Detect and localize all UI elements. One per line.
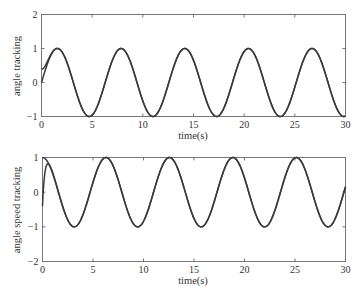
x-tick-label: 5 bbox=[90, 119, 95, 130]
bottom-reference-curve bbox=[43, 158, 346, 227]
bottom-y-label: angle speed tracking bbox=[11, 166, 22, 253]
top-tracking-curve bbox=[42, 48, 346, 116]
bottom-plot-frame bbox=[43, 158, 346, 262]
y-tick-label: 1 bbox=[33, 43, 38, 54]
x-tick-label: 15 bbox=[189, 119, 199, 130]
x-tick-label: 15 bbox=[189, 264, 199, 275]
x-tick-label: 0 bbox=[39, 119, 44, 130]
x-tick-label: 20 bbox=[239, 119, 249, 130]
top-plot: 051015202530 −1012 time(s) angle trackin… bbox=[11, 9, 351, 142]
x-tick-label: 10 bbox=[139, 264, 149, 275]
y-tick-label: −1 bbox=[27, 111, 38, 122]
y-tick-label: −2 bbox=[28, 256, 39, 267]
y-tick-label: 2 bbox=[33, 9, 38, 20]
y-tick-label: 1 bbox=[34, 152, 39, 163]
top-plot-frame bbox=[42, 15, 346, 117]
x-tick-label: 25 bbox=[290, 264, 300, 275]
figure: 051015202530 −1012 time(s) angle trackin… bbox=[0, 0, 359, 298]
bottom-y-ticks: −2−101 bbox=[28, 152, 346, 267]
bottom-plot: 051015202530 −2−101 time(s) angle speed … bbox=[11, 152, 351, 287]
x-tick-label: 30 bbox=[341, 264, 351, 275]
x-tick-label: 30 bbox=[341, 119, 351, 130]
y-tick-label: 0 bbox=[34, 187, 39, 198]
x-tick-label: 25 bbox=[290, 119, 300, 130]
x-tick-label: 0 bbox=[40, 264, 45, 275]
x-tick-label: 5 bbox=[91, 264, 96, 275]
top-y-ticks: −1012 bbox=[27, 9, 346, 122]
top-x-label: time(s) bbox=[178, 130, 208, 142]
bottom-x-label: time(s) bbox=[178, 275, 208, 287]
y-tick-label: −1 bbox=[28, 221, 39, 232]
x-tick-label: 10 bbox=[138, 119, 148, 130]
top-x-ticks: 051015202530 bbox=[39, 15, 351, 130]
top-y-label: angle tracking bbox=[11, 35, 22, 96]
x-tick-label: 20 bbox=[240, 264, 250, 275]
y-tick-label: 0 bbox=[33, 77, 38, 88]
bottom-x-ticks: 051015202530 bbox=[40, 158, 351, 275]
bottom-tracking-curve bbox=[43, 158, 346, 227]
